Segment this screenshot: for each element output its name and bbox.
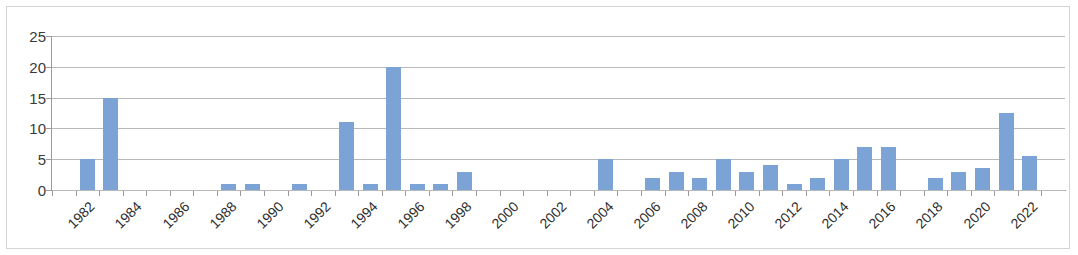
- x-axis-tick-mark: [405, 191, 406, 196]
- x-axis-tick-mark: [641, 191, 642, 196]
- bar: [881, 147, 896, 190]
- x-axis-tick-mark: [500, 191, 501, 196]
- x-axis-tick-mark: [288, 191, 289, 196]
- x-axis-tick-mark: [76, 191, 77, 196]
- bar: [716, 159, 731, 190]
- bar: [763, 165, 778, 190]
- x-axis-tick-label: 2020: [961, 199, 993, 231]
- x-axis-tick-label: 1990: [254, 199, 286, 231]
- x-axis-tick-label: 1994: [348, 199, 380, 231]
- x-axis-tick-mark: [193, 191, 194, 196]
- x-axis-tick-mark: [358, 191, 359, 196]
- x-axis-tick-label: 1992: [301, 199, 333, 231]
- gridline: [52, 128, 1065, 129]
- bar: [787, 184, 802, 190]
- x-axis-tick-label: 2018: [913, 199, 945, 231]
- y-axis: 0510152025: [0, 0, 46, 255]
- y-axis-tick-label: 20: [4, 59, 46, 74]
- x-axis-tick-mark: [452, 191, 453, 196]
- x-axis-tick-mark: [900, 191, 901, 196]
- y-axis-tick-mark: [46, 159, 52, 160]
- bar: [810, 178, 825, 190]
- x-axis-tick-label: 2008: [678, 199, 710, 231]
- bar: [363, 184, 378, 190]
- y-axis-tick-label: 15: [4, 90, 46, 105]
- x-axis-tick-mark: [523, 191, 524, 196]
- x-axis-tick-label: 2004: [584, 199, 616, 231]
- bar: [245, 184, 260, 190]
- bar-chart: 0510152025 19821984198619881990199219941…: [0, 0, 1078, 255]
- bar: [739, 172, 754, 190]
- bar: [999, 113, 1014, 190]
- y-axis-tick-label: 10: [4, 121, 46, 136]
- gridline: [52, 190, 1065, 191]
- x-axis-tick-mark: [877, 191, 878, 196]
- bar: [339, 122, 354, 190]
- x-axis-tick-mark: [217, 191, 218, 196]
- bar: [692, 178, 707, 190]
- bar: [433, 184, 448, 190]
- y-axis-tick-mark: [46, 67, 52, 68]
- x-axis-tick-mark: [782, 191, 783, 196]
- y-axis-tick-label: 0: [4, 183, 46, 198]
- bar: [457, 172, 472, 190]
- x-axis-tick-mark: [429, 191, 430, 196]
- bar: [80, 159, 95, 190]
- bar: [292, 184, 307, 190]
- x-axis-tick-mark: [994, 191, 995, 196]
- bar: [386, 67, 401, 190]
- x-axis-tick-label: 1998: [442, 199, 474, 231]
- x-axis-tick-mark: [240, 191, 241, 196]
- x-axis-tick-mark: [665, 191, 666, 196]
- x-axis-tick-mark: [311, 191, 312, 196]
- x-axis-tick-mark: [947, 191, 948, 196]
- x-axis-tick-label: 2016: [866, 199, 898, 231]
- x-axis-tick-label: 2022: [1008, 199, 1040, 231]
- x-axis-tick-label: 2010: [725, 199, 757, 231]
- x-axis-tick-mark: [829, 191, 830, 196]
- x-axis-tick-label: 1988: [207, 199, 239, 231]
- bar: [598, 159, 613, 190]
- y-axis-tick-label: 25: [4, 29, 46, 44]
- x-axis-tick-mark: [971, 191, 972, 196]
- bar: [928, 178, 943, 190]
- x-axis-tick-mark: [146, 191, 147, 196]
- x-axis-tick-mark: [476, 191, 477, 196]
- y-axis-tick-mark: [46, 98, 52, 99]
- x-axis-tick-label: 2000: [489, 199, 521, 231]
- x-axis-tick-label: 2012: [772, 199, 804, 231]
- x-axis-tick-label: 2014: [819, 199, 851, 231]
- x-axis-tick-mark: [335, 191, 336, 196]
- x-axis-tick-mark: [1018, 191, 1019, 196]
- x-axis-tick-mark: [759, 191, 760, 196]
- bar: [103, 98, 118, 190]
- bar: [975, 168, 990, 190]
- x-axis-tick-mark: [735, 191, 736, 196]
- bar: [951, 172, 966, 190]
- x-axis-tick-mark: [594, 191, 595, 196]
- bar: [857, 147, 872, 190]
- x-axis-tick-mark: [52, 191, 53, 196]
- bar: [645, 178, 660, 190]
- x-axis-tick-mark: [170, 191, 171, 196]
- x-axis-tick-label: 2002: [537, 199, 569, 231]
- x-axis-tick-mark: [547, 191, 548, 196]
- x-axis-tick-label: 1982: [65, 199, 97, 231]
- bar: [669, 172, 684, 190]
- x-axis-tick-label: 1984: [112, 199, 144, 231]
- x-axis-tick-mark: [99, 191, 100, 196]
- x-axis-tick-mark: [123, 191, 124, 196]
- x-axis-tick-mark: [688, 191, 689, 196]
- x-axis-tick-mark: [264, 191, 265, 196]
- gridline: [52, 98, 1065, 99]
- x-axis-tick-mark: [617, 191, 618, 196]
- bar: [221, 184, 236, 190]
- x-axis-tick-mark: [853, 191, 854, 196]
- x-axis-tick-mark: [712, 191, 713, 196]
- bar: [834, 159, 849, 190]
- bar: [1022, 156, 1037, 190]
- x-axis-tick-mark: [382, 191, 383, 196]
- x-axis-tick-mark: [806, 191, 807, 196]
- bar: [410, 184, 425, 190]
- x-axis-tick-mark: [570, 191, 571, 196]
